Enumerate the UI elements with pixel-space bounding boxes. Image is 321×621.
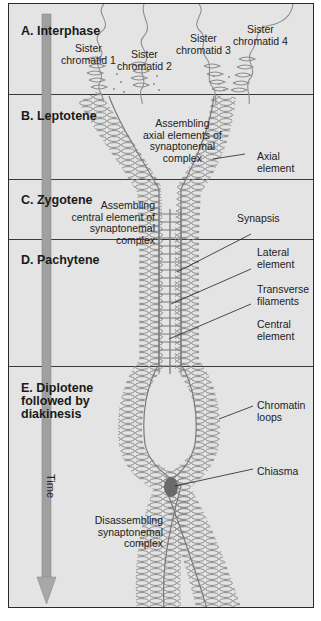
time-arrow-icon [37,14,56,604]
label-assembling-axial: Assembling axial elements of synaptonema… [143,118,222,164]
label-sister-chromatid-2: Sister chromatid 2 [117,49,172,72]
stage-title-leptotene: B. Leptotene [21,110,97,123]
label-axial-element: Axial element [257,151,294,174]
chiasma-icon [164,477,178,497]
label-chiasma: Chiasma [257,466,298,478]
label-sister-chromatid-3: Sister chromatid 3 [176,33,231,56]
stage-title-pachytene: D. Pachytene [21,254,100,267]
stage-title-interphase: A. Interphase [21,25,100,38]
label-sister-chromatid-1: Sister chromatid 1 [61,43,116,66]
label-sister-chromatid-4: Sister chromatid 4 [233,24,288,47]
time-axis-label: Time [45,474,57,498]
label-chromatin-loops: Chromatin loops [257,400,305,423]
label-synapsis: Synapsis [237,213,280,225]
diagram-frame: A. Interphase B. Leptotene C. Zygotene D… [8,3,314,608]
stage-title-diplotene: E. Diplotene followed by diakinesis [21,382,93,421]
label-disassembling: Disassembling synaptonemal complex [69,515,163,550]
label-transverse-filaments: Transverse filaments [257,284,309,307]
label-assembling-central: Assembling central element of synaptonem… [51,200,155,246]
label-lateral-element: Lateral element [257,247,294,270]
label-central-element: Central element [257,319,294,342]
